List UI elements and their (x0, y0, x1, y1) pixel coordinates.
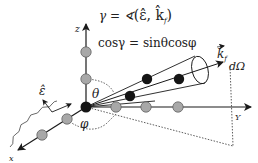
photoemission-geometry-diagram: γ = ∢(ε̂, k̂f) cosγ = sinθcosφ z Y x θ φ… (0, 0, 258, 163)
phi-arc (67, 114, 116, 129)
atom (141, 102, 151, 112)
theta-label: θ (92, 87, 100, 101)
z-axis-label: z (74, 24, 80, 34)
polarization-label: ε̂ (39, 84, 45, 98)
atom (62, 114, 72, 124)
atom (125, 91, 135, 101)
x-axis-label: x (9, 154, 14, 163)
gray-atoms (37, 47, 183, 140)
atom (81, 47, 91, 57)
atom (173, 102, 183, 112)
propagation-arrow (52, 104, 71, 112)
emitter-atom (81, 102, 92, 113)
cos-relation: cosγ = sinθcosφ (98, 36, 196, 50)
atom (142, 74, 152, 84)
atom (37, 130, 47, 140)
vertical-projection-line (230, 66, 233, 146)
solid-angle-label: dΩ (229, 60, 245, 73)
y-axis-label: Y (235, 113, 241, 122)
gamma-definition: γ = ∢(ε̂, k̂f) (99, 5, 172, 25)
xy-projection-line (86, 107, 233, 146)
phi-label: φ (80, 117, 89, 131)
kf-label: kf (217, 47, 228, 63)
x-axis (18, 107, 86, 150)
atom (174, 74, 184, 84)
atom (81, 74, 91, 84)
projection-lines (86, 66, 233, 146)
atom (111, 102, 121, 112)
